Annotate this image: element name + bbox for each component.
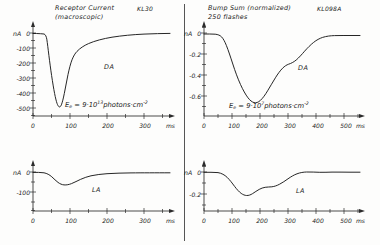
panel-top-left: Receptor Current (macroscopic) KL30 nA 0… xyxy=(0,0,184,135)
panel-bottom-right: nA 0 -0.2 0 100 200 300 400 500 ms LA xyxy=(184,135,380,245)
plot-bottom-left xyxy=(0,135,184,245)
plot-top-left xyxy=(0,0,184,135)
plot-top-right xyxy=(184,0,380,135)
figure-root: Receptor Current (macroscopic) KL30 nA 0… xyxy=(0,0,380,245)
plot-bottom-right xyxy=(184,135,380,245)
panel-top-right: Bump Sum (normalized) 250 flashes KL098A… xyxy=(184,0,380,135)
panel-bottom-left: nA 0 -100 0 100 200 300 ms LA xyxy=(0,135,184,245)
